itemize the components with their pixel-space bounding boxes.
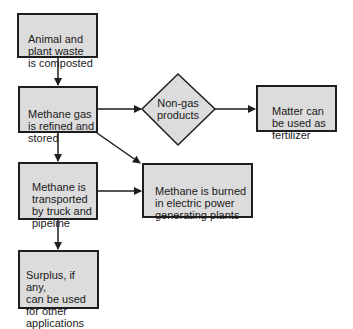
arrow-refined-to-burned [97, 133, 140, 163]
node-surplus-label: Surplus, if any, can be used for other a… [26, 269, 86, 329]
node-fertilizer: Matter can be used as fertilizer [256, 85, 337, 132]
node-refined: Methane gas is refined and stored [18, 86, 98, 133]
diamond-non-gas-label: Non-gas products [148, 97, 208, 121]
node-transported: Methane is transported by truck and pipe… [18, 162, 98, 220]
node-composted: Animal and plant waste is composted [17, 13, 98, 58]
node-surplus: Surplus, if any, can be used for other a… [18, 250, 99, 309]
node-burned-label: Methane is burned in electric power gene… [155, 185, 246, 221]
node-burned: Methane is burned in electric power gene… [142, 163, 253, 218]
node-composted-label: Animal and plant waste is composted [28, 33, 93, 69]
